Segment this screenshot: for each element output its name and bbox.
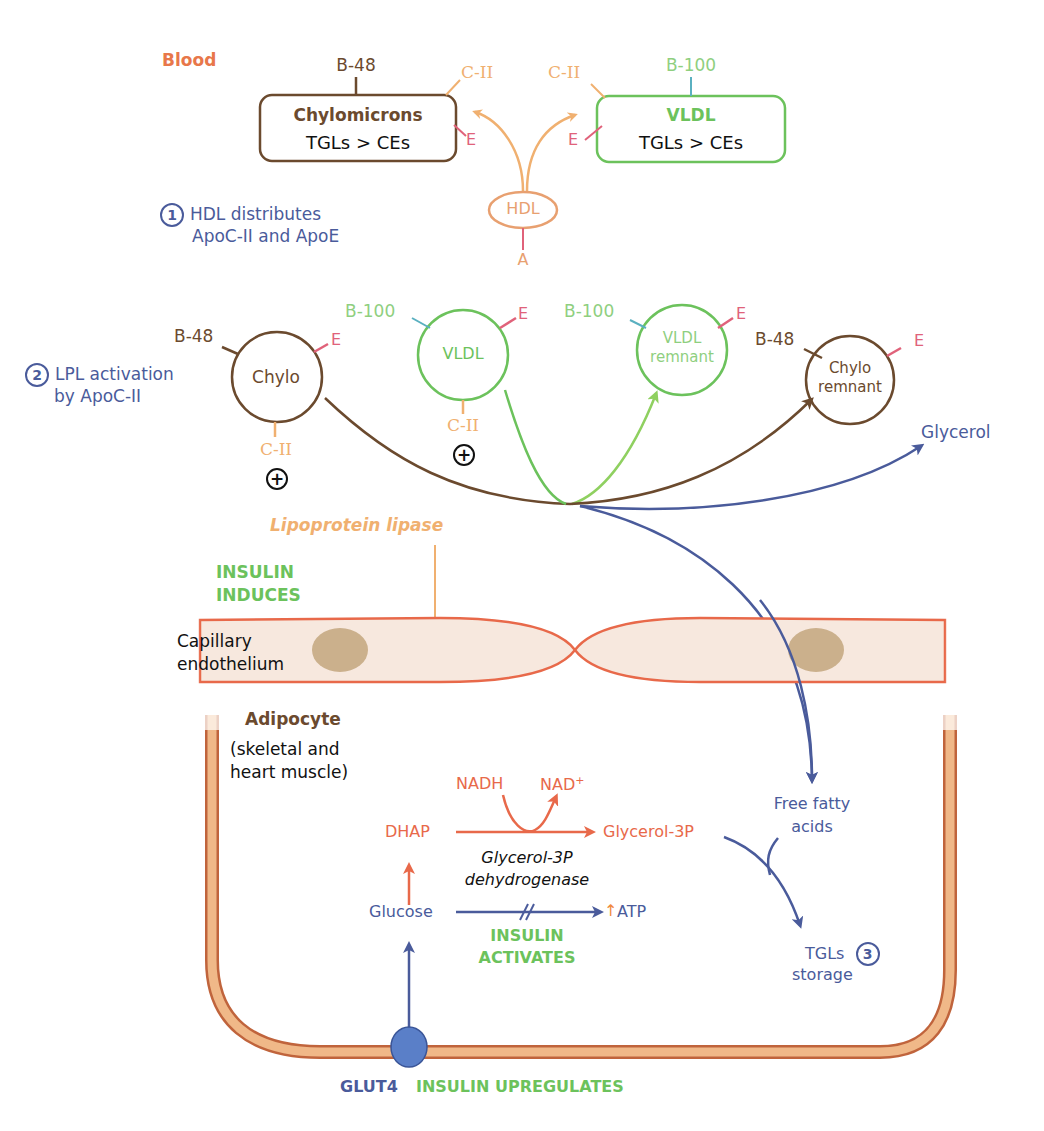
tgl-storage-label-1: TGLs 3 <box>805 942 886 966</box>
adipocyte-subtitle-1: (skeletal and <box>230 740 340 760</box>
lpl-to-glycerol-arrow <box>580 446 921 509</box>
chylo-apo-b48: B-48 <box>174 327 213 347</box>
hdl-apo-a: A <box>518 251 529 269</box>
lpl-to-vldl-remnant-arrow <box>572 394 656 504</box>
chylo-apo-c2: C-II <box>260 440 292 460</box>
glycerol-label: Glycerol <box>921 423 991 443</box>
vldl-circle-apo-b100: B-100 <box>345 302 395 322</box>
vldl-remnant-apo-b100: B-100 <box>564 302 614 322</box>
chylo-remnant-apo-e: E <box>914 332 924 350</box>
chylomicrons-title: Chylomicrons <box>293 106 422 126</box>
glycerol-3p-label: Glycerol-3P <box>603 823 694 841</box>
step2-badge: 2 <box>25 363 49 387</box>
lpl-to-chylo-remnant-arrow <box>570 400 811 504</box>
vldl-subtitle: TGLs > CEs <box>639 133 743 154</box>
dhap-label: DHAP <box>385 823 430 841</box>
hdl-label: HDL <box>506 200 539 218</box>
insulin-upregulates-label: INSULIN UPREGULATES <box>416 1078 624 1096</box>
atp-up-arrow-icon: ↑ <box>604 902 617 920</box>
ffa-label-2: acids <box>791 818 833 836</box>
chylo-remnant-label-2: remnant <box>818 379 882 396</box>
vldl-apo-e: E <box>568 131 578 149</box>
chylomicrons-apo-c2: C-II <box>461 63 493 83</box>
chylomicrons-apo-e: E <box>466 131 476 149</box>
chylomicrons-subtitle: TGLs > CEs <box>306 133 410 154</box>
capillary-endothelium <box>195 610 950 690</box>
hdl-to-vldl-arrow <box>527 115 575 191</box>
vldl-circle-apo-c2: C-II <box>447 416 479 436</box>
vldl-circle-apo-e: E <box>518 305 528 323</box>
step1-note: 1HDL distributes <box>160 203 321 227</box>
insulin-induces-label-2: INDUCES <box>216 586 301 606</box>
vldl-remnant-label-2: remnant <box>650 349 714 366</box>
step1-badge: 1 <box>160 203 184 227</box>
vldl-apo-b100: B-100 <box>666 56 716 76</box>
lipoprotein-lipase-label: Lipoprotein lipase <box>270 516 443 536</box>
tgl-storage-label-2: storage <box>792 966 853 984</box>
nad-label: NAD+ <box>540 775 584 795</box>
step1-note-line2: ApoC-II and ApoE <box>192 227 339 247</box>
adipocyte-title: Adipocyte <box>245 710 341 730</box>
chylo-remnant-label-1: Chylo <box>829 360 871 377</box>
vldl-title: VLDL <box>667 106 716 126</box>
g3p-dehydrogenase-label-1: Glycerol-3P <box>481 849 572 867</box>
glucose-label: Glucose <box>369 903 433 921</box>
chylo-remnant-apo-b48: B-48 <box>755 330 794 350</box>
chylomicrons-apo-b48: B-48 <box>336 56 375 76</box>
vldl-apo-c2: C-II <box>548 63 580 83</box>
vldl-remnant-label-1: VLDL <box>663 330 702 347</box>
g3p-to-tgl-arrow <box>724 837 800 925</box>
vldl-circle-label: VLDL <box>442 345 483 363</box>
chylo-label: Chylo <box>252 368 300 388</box>
nucleus-left <box>312 628 368 672</box>
capillary-label-2: endothelium <box>177 655 284 675</box>
vldl-remnant-apo-e: E <box>736 305 746 323</box>
step2-note-line2: by ApoC-II <box>54 387 141 407</box>
vldl-to-lpl-curve <box>505 390 566 504</box>
insulin-induces-label-1: INSULIN <box>216 563 294 583</box>
chylo-activation-plus-icon: + <box>266 468 288 490</box>
glut4-label: GLUT4 <box>340 1078 398 1096</box>
adipocyte-subtitle-2: heart muscle) <box>230 763 348 783</box>
step3-badge: 3 <box>856 942 880 966</box>
glut4-transporter <box>391 1027 427 1067</box>
capillary-label-1: Capillary <box>177 632 252 652</box>
nucleus-right <box>788 628 844 672</box>
nadh-label: NADH <box>456 775 503 793</box>
nadh-to-nad-arrow <box>503 795 556 831</box>
blood-label: Blood <box>162 51 216 71</box>
lipoprotein-metabolism-diagram: Blood B-48 C-II E Chylomicrons TGLs > CE… <box>0 0 1044 1131</box>
insulin-activates-label-1: INSULIN <box>490 927 563 945</box>
insulin-activates-label-2: ACTIVATES <box>479 949 576 967</box>
step2-note: 2LPL activation <box>25 363 174 387</box>
chylo-apo-e: E <box>331 331 341 349</box>
ffa-label-1: Free fatty <box>774 795 851 813</box>
ffa-to-tgl-curve <box>768 838 778 875</box>
atp-label: ATP <box>617 903 646 921</box>
g3p-dehydrogenase-label-2: dehydrogenase <box>465 871 589 889</box>
hdl-to-chylo-arrow <box>475 112 523 191</box>
vldl-activation-plus-icon: + <box>453 444 475 466</box>
chylo-to-lpl-curve <box>325 398 570 504</box>
